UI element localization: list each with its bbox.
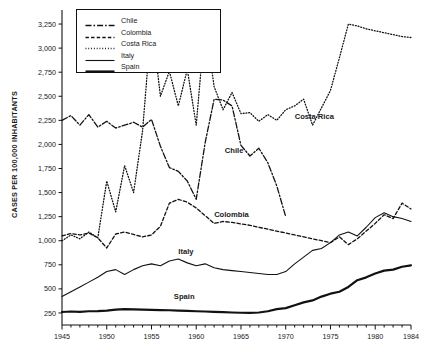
series-line-italy [62,213,411,297]
y-axis-tick-label: 2,500 [10,92,56,101]
y-axis-tick-label: 3,250 [10,20,56,29]
y-axis-tick-label: 750 [10,260,56,269]
legend-line-swatch-icon [85,51,115,60]
legend-item-label: Spain [121,62,139,71]
series-label-chile: Chile [225,146,244,155]
x-axis-tick-label: 1980 [355,332,395,341]
x-axis-tick-label: 1965 [221,332,261,341]
legend-line-swatch-icon [85,28,115,37]
x-axis-tick-label: 1945 [42,332,82,341]
legend-item-label: Costa Rica [121,39,156,48]
x-axis-tick-label: 1960 [176,332,216,341]
series-label-spain: Spain [174,292,195,301]
y-axis-tick-label: 2,750 [10,68,56,77]
legend-item-colombia[interactable]: Colombia [85,27,151,38]
legend: ChileColombiaCosta RicaItalySpain [76,9,221,73]
x-axis-tick-label: 1970 [266,332,306,341]
legend-item-label: Chile [121,16,137,25]
legend-item-label: Colombia [121,28,151,37]
series-label-costa-rica: Costa Rica [295,112,334,121]
x-axis-tick-label: 1950 [87,332,127,341]
x-axis-tick-label: 1984 [391,332,424,341]
legend-item-costa-rica[interactable]: Costa Rica [85,38,156,49]
legend-item-chile[interactable]: Chile [85,15,137,26]
y-axis-tick-label: 3,000 [10,44,56,53]
x-axis-tick-label: 1955 [131,332,171,341]
series-label-colombia: Colombia [214,210,249,219]
y-axis-tick-label: 1,750 [10,164,56,173]
series-line-spain [62,265,411,313]
y-axis-tick-label: 2,000 [10,140,56,149]
legend-item-label: Italy [121,51,134,60]
y-axis-tick-label: 500 [10,284,56,293]
y-axis-tick-label: 1,000 [10,236,56,245]
series-label-italy: Italy [178,247,193,256]
y-axis-title: CASES PER 100,000 INHABITANTS [10,55,19,255]
x-axis-tick-label: 1975 [310,332,350,341]
y-axis-tick-label: 250 [10,309,56,318]
y-axis-tick-label: 1,500 [10,188,56,197]
legend-line-swatch-icon [85,16,115,25]
legend-item-italy[interactable]: Italy [85,50,134,61]
legend-line-swatch-icon [85,39,115,48]
series-line-chile [62,99,286,216]
y-axis-tick-label: 1,250 [10,212,56,221]
y-axis-tick-label: 2,250 [10,116,56,125]
legend-line-swatch-icon [85,62,115,71]
legend-item-spain[interactable]: Spain [85,61,139,72]
